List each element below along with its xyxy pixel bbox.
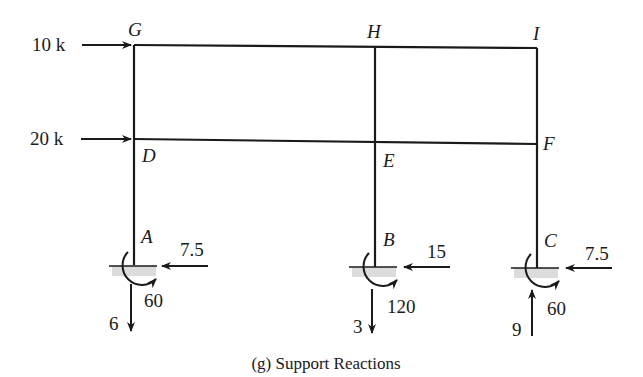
node-label-e: E <box>382 150 395 171</box>
horizontal-reaction-value: 7.5 <box>180 239 204 260</box>
vertical-reaction-value: 9 <box>512 319 522 340</box>
applied-load-10k: 10 k <box>32 34 131 55</box>
node-label-g: G <box>128 19 142 40</box>
node-label-b: B <box>383 229 395 250</box>
node-label-h: H <box>366 21 382 42</box>
load-label-10k: 10 k <box>32 34 66 55</box>
support-c: C 7.5 60 9 <box>511 230 612 340</box>
vertical-reaction-value: 3 <box>353 316 363 337</box>
node-label-a: A <box>139 226 153 247</box>
moment-reaction-value: 60 <box>144 290 163 311</box>
load-label-20k: 20 k <box>30 128 64 149</box>
moment-reaction-value: 60 <box>547 298 566 319</box>
vertical-reaction-value: 6 <box>109 313 119 334</box>
figure-caption: (g) Support Reactions <box>251 354 400 373</box>
node-label-c: C <box>544 230 557 251</box>
moment-reaction-value: 120 <box>387 296 416 317</box>
node-label-d: D <box>141 145 156 166</box>
applied-load-20k: 20 k <box>30 128 131 149</box>
support-a: A 7.5 60 6 <box>109 226 208 334</box>
horizontal-reaction-value: 15 <box>427 241 446 262</box>
frame-diagram: 10 k 20 k G H I D E F A 7.5 60 6 B 15 12… <box>0 0 643 377</box>
ground-hatch <box>514 268 558 278</box>
ground-hatch <box>352 267 396 277</box>
horizontal-reaction-value: 7.5 <box>585 243 609 264</box>
beam-g-h-i <box>134 45 537 48</box>
frame-members <box>134 45 537 268</box>
node-label-i: I <box>532 23 541 44</box>
node-label-f: F <box>542 133 555 154</box>
support-b: B 15 120 3 <box>349 229 450 337</box>
ground-hatch <box>112 266 156 276</box>
beam-d-e-f <box>134 139 537 144</box>
